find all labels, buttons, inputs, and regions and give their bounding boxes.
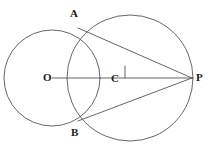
- geometry-figure: [0, 0, 212, 156]
- point-label-p: P: [196, 72, 203, 83]
- point-label-b: B: [71, 127, 78, 138]
- point-label-a: A: [70, 8, 78, 19]
- point-label-c: C: [111, 73, 119, 84]
- segment-AP: [78, 28, 192, 78]
- point-label-o: O: [43, 72, 52, 83]
